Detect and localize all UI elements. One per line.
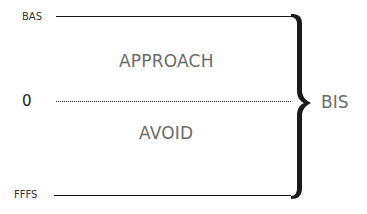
bis-label: BIS xyxy=(321,92,348,112)
curly-brace-icon xyxy=(0,0,367,214)
